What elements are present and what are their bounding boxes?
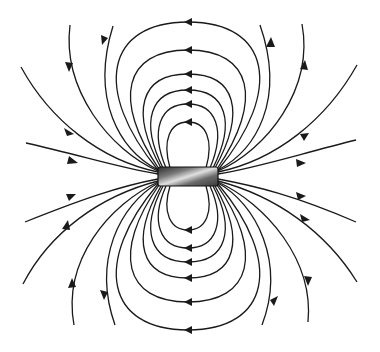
bar-magnet — [158, 167, 218, 186]
closed-loops-top — [116, 22, 259, 170]
arrows-top — [184, 18, 192, 126]
field-lines-diagram — [0, 0, 380, 352]
arrows-bottom — [184, 226, 192, 334]
arrows-left — [62, 35, 108, 300]
arrows-right — [266, 37, 312, 306]
closed-loops-bottom — [116, 184, 259, 330]
diagram-canvas: Magnetic field lines of a bar magnet — [0, 0, 380, 352]
